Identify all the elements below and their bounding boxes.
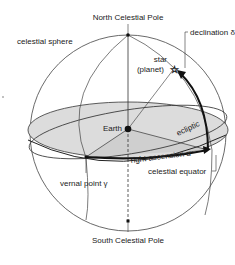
earth-label: Earth xyxy=(103,124,122,133)
declination-leader xyxy=(185,32,188,68)
north-pole-dot xyxy=(126,33,130,37)
earth-dot xyxy=(125,126,132,133)
stray-mark xyxy=(2,96,3,97)
celestial-equator-leader xyxy=(212,155,216,171)
planet-label: (planet) xyxy=(137,65,164,74)
star-label: star xyxy=(154,55,168,64)
north-pole-label: North Celestial Pole xyxy=(93,13,164,22)
celestial-sphere-label: celestial sphere xyxy=(17,37,73,46)
declination-label: declination δ xyxy=(190,28,235,37)
south-pole-dot xyxy=(127,220,130,223)
celestial-equator-label: celestial equator xyxy=(148,167,207,176)
vernal-point-dot xyxy=(84,155,87,158)
vernal-point-label: vernal point γ xyxy=(60,179,108,188)
star-icon: ☆ xyxy=(170,64,179,75)
south-pole-label: South Celestial Pole xyxy=(92,236,165,245)
celestial-sphere-diagram: ☆ North Celestial Pole celestial sphere … xyxy=(0,0,235,265)
